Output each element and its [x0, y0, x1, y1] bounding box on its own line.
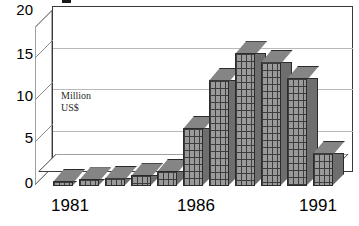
y-tick-label-15: 15	[3, 46, 33, 61]
y-tick-label-20: 20	[3, 2, 33, 17]
bar-1988	[235, 53, 255, 186]
bar-1984	[131, 175, 151, 186]
bar-chart: 20151050 Million US$ 198119861991	[0, 0, 359, 226]
cropped-title-fragment	[62, 0, 71, 3]
bar-front-face	[261, 62, 281, 187]
bar-1986	[183, 128, 203, 186]
y-tick-label-5: 5	[3, 130, 33, 145]
bar-front-face	[209, 80, 229, 186]
plot-area: Million US$	[35, 6, 353, 190]
y-tick-label-10: 10	[3, 88, 33, 103]
bar-front-face	[183, 128, 203, 186]
bar-1989	[261, 62, 281, 187]
bar-1990	[287, 78, 307, 186]
x-tick-label-1986: 1986	[161, 196, 231, 216]
bar-side-face	[332, 153, 344, 186]
bar-1981	[53, 181, 73, 186]
bar-1987	[209, 80, 229, 186]
bar-front-face	[235, 53, 255, 186]
bar-1982	[79, 179, 99, 186]
bar-front-face	[287, 78, 307, 186]
bar-1985	[157, 171, 177, 186]
bar-front-face	[313, 153, 333, 186]
bar-front-face	[157, 171, 177, 186]
bar-1983	[105, 178, 125, 186]
bar-front-face	[131, 175, 151, 186]
x-tick-label-1981: 1981	[35, 196, 105, 216]
bar-1991	[313, 153, 333, 186]
x-tick-label-1991: 1991	[283, 196, 353, 216]
bar-series	[35, 6, 353, 190]
bar-front-face	[105, 178, 125, 186]
y-tick-label-0: 0	[3, 175, 33, 190]
